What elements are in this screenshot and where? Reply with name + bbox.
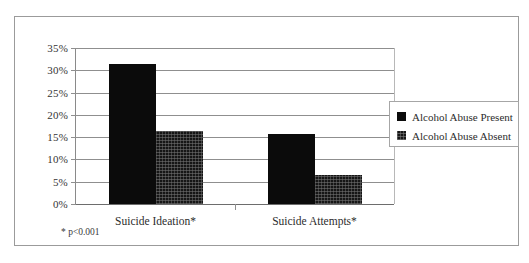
bar-1-1 <box>109 64 156 204</box>
bar-2-2 <box>315 175 362 204</box>
legend-item-absent[interactable]: Alcohol Abuse Absent <box>397 127 513 144</box>
y-tick-mark <box>71 93 76 94</box>
footnote-significance: * p<0.001 <box>61 227 100 237</box>
x-axis-category-label: Suicide Ideation* <box>115 215 196 227</box>
y-tick-mark <box>71 204 76 205</box>
legend-label-present: Alcohol Abuse Present <box>412 111 513 123</box>
bar-1-2 <box>156 131 203 204</box>
y-tick-mark <box>71 182 76 183</box>
y-tick-mark <box>71 70 76 71</box>
chart-legend: Alcohol Abuse Present Alcohol Abuse Abse… <box>389 101 519 147</box>
y-axis-tick-label: 30% <box>47 64 68 76</box>
x-axis-category-label: Suicide Attempts* <box>272 215 357 227</box>
legend-swatch-icon-present <box>397 112 406 121</box>
plot-area: 0%5%10%15%20%25%30%35% Suicide Ideation*… <box>75 48 395 204</box>
chart-frame: 0%5%10%15%20%25%30%35% Suicide Ideation*… <box>14 16 519 246</box>
y-axis-tick-label: 10% <box>47 153 68 165</box>
y-tick-mark <box>71 115 76 116</box>
y-axis-tick-label: 5% <box>53 176 68 188</box>
y-axis-tick-label: 25% <box>47 87 68 99</box>
y-axis-tick-label: 35% <box>47 42 68 54</box>
legend-item-present[interactable]: Alcohol Abuse Present <box>397 108 513 125</box>
y-tick-mark <box>71 48 76 49</box>
y-axis-tick-label: 0% <box>53 198 68 210</box>
y-tick-mark <box>71 159 76 160</box>
bar-2-1 <box>268 134 315 204</box>
gridline-35 <box>76 48 394 49</box>
y-axis-tick-label: 15% <box>47 131 68 143</box>
legend-label-absent: Alcohol Abuse Absent <box>412 130 511 142</box>
category-separator-tick <box>235 204 236 210</box>
legend-swatch-icon-absent <box>397 131 406 140</box>
y-tick-mark <box>71 137 76 138</box>
y-axis-tick-label: 20% <box>47 109 68 121</box>
